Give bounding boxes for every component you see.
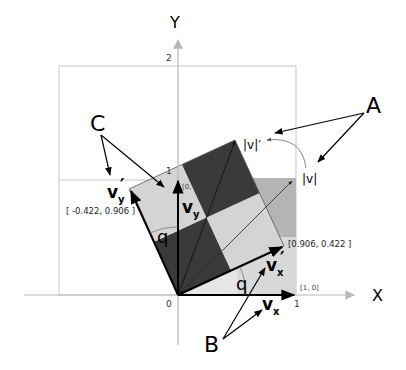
svg-text:v: v bbox=[182, 197, 193, 217]
rotated-y-coord: [ -0.422, 0.906 ] bbox=[66, 206, 135, 216]
rotation-diagram: Y X 0 1 1 2 [0, 1] [1, 0] [0.906, 0.422 … bbox=[0, 0, 406, 370]
svg-text:v: v bbox=[107, 182, 118, 202]
svg-text:v: v bbox=[262, 294, 273, 314]
y-tick-1: 1 bbox=[166, 166, 172, 176]
rotation-arc bbox=[267, 140, 306, 168]
rotated-x-coord: [0.906, 0.422 ] bbox=[288, 239, 351, 249]
norm-v-label: |v| bbox=[302, 172, 317, 186]
callout-A: A bbox=[366, 93, 381, 118]
svg-text:′: ′ bbox=[120, 175, 125, 195]
label-vx: v x bbox=[262, 294, 280, 317]
x-tick-1: 1 bbox=[294, 299, 300, 309]
svg-text:y: y bbox=[118, 194, 125, 205]
x-axis-label: X bbox=[372, 286, 383, 305]
theta-y-label: q bbox=[157, 226, 168, 247]
unit-x-coord: [1, 0] bbox=[300, 284, 319, 292]
norm-v-prime-label: |v|′ bbox=[243, 138, 261, 152]
svg-text:′: ′ bbox=[280, 248, 285, 268]
origin-label: 0 bbox=[166, 299, 172, 309]
svg-text:x: x bbox=[273, 306, 280, 317]
svg-text:v: v bbox=[266, 255, 277, 275]
callout-C: C bbox=[90, 111, 105, 136]
y-axis-label: Y bbox=[169, 13, 180, 32]
callout-B: B bbox=[204, 332, 219, 357]
svg-text:x: x bbox=[277, 267, 284, 278]
theta-x-label: q bbox=[236, 273, 247, 294]
callout-arrows-A bbox=[275, 113, 364, 162]
unit-y-coord: [0, 1] bbox=[182, 183, 201, 191]
svg-text:y: y bbox=[193, 209, 200, 220]
callout-arrows-C bbox=[101, 135, 164, 187]
y-tick-2: 2 bbox=[166, 53, 172, 63]
